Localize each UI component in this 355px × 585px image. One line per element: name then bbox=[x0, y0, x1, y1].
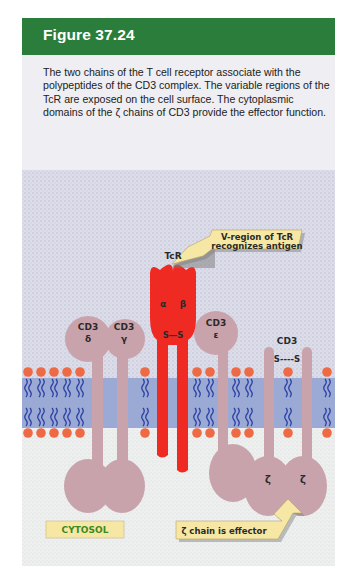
v-region-callout-line2: recognizes antigen bbox=[211, 241, 302, 251]
lipid-head bbox=[244, 428, 254, 438]
lipid-head bbox=[49, 367, 59, 377]
cd3-delta-label: CD3 bbox=[78, 322, 98, 332]
cd3-zeta-label: CD3 bbox=[277, 336, 297, 346]
cd3-zeta-disulfide: S----S bbox=[274, 354, 300, 364]
cd3-epsilon-subunit: ε bbox=[213, 330, 218, 340]
zeta-right-label: ζ bbox=[300, 474, 306, 485]
cytosol-label: CYTOSOL bbox=[62, 525, 109, 535]
lipid-head bbox=[75, 428, 85, 438]
lipid-head bbox=[192, 367, 202, 377]
cd3-delta-subunit: δ bbox=[85, 334, 91, 344]
lipid-head bbox=[23, 428, 33, 438]
lipid-head bbox=[62, 367, 72, 377]
lipid-head bbox=[205, 428, 215, 438]
lipid-head bbox=[322, 367, 332, 377]
lipid-head bbox=[75, 367, 85, 377]
lipid-head bbox=[62, 428, 72, 438]
lipid-head bbox=[231, 428, 241, 438]
lipid-head bbox=[36, 428, 46, 438]
lipid-head bbox=[192, 428, 202, 438]
lipid-head bbox=[322, 428, 332, 438]
lipid-head bbox=[140, 367, 150, 377]
lipid-head bbox=[23, 367, 33, 377]
cytosol-label-box: CYTOSOL bbox=[46, 521, 124, 538]
tcr-cd3-diagram: V-region of TcR recognizes antigen TcR α… bbox=[0, 0, 355, 585]
tcr-beta-label: β bbox=[180, 299, 187, 309]
lipid-head bbox=[140, 428, 150, 438]
cd3-gamma-subunit: γ bbox=[121, 334, 127, 344]
lipid-head bbox=[283, 367, 293, 377]
zeta-left-label: ζ bbox=[265, 474, 271, 485]
zeta-effector-callout-text: ζ chain is effector bbox=[181, 526, 267, 536]
lipid-head bbox=[283, 428, 293, 438]
cd3-gamma-label: CD3 bbox=[114, 322, 134, 332]
lipid-head bbox=[205, 367, 215, 377]
cd3-epsilon-label: CD3 bbox=[206, 318, 226, 328]
tcr-alpha-label: α bbox=[160, 299, 166, 309]
lipid-head bbox=[244, 367, 254, 377]
tcr-label: TcR bbox=[164, 251, 181, 261]
lipid-head bbox=[231, 367, 241, 377]
tcr-disulfide-label: S—S bbox=[163, 330, 184, 340]
lipid-head bbox=[36, 367, 46, 377]
lipid-head bbox=[49, 428, 59, 438]
